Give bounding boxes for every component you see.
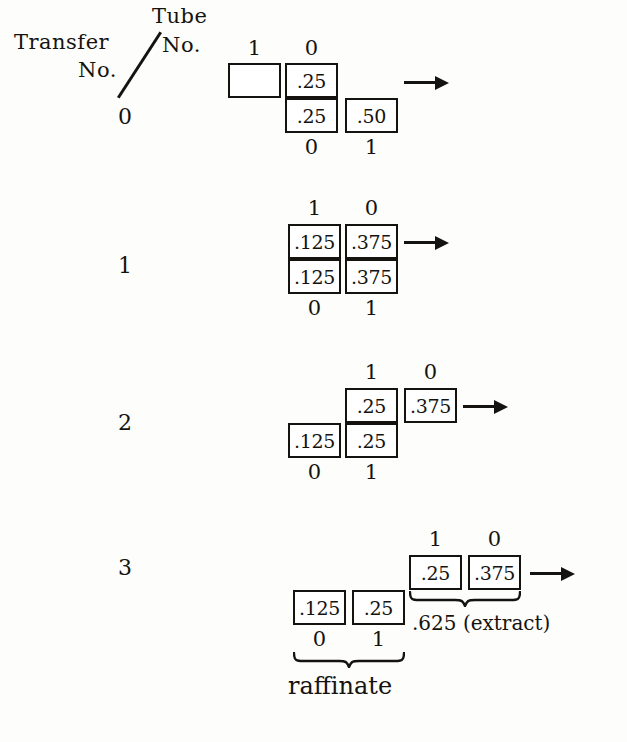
transfer-arrow-row-1: [404, 236, 450, 250]
extract-brace: [409, 591, 521, 607]
raffinate-brace: [293, 652, 405, 668]
tube-label-top-2-0: 1: [345, 360, 398, 384]
tube-label-bottom-1-0: 0: [288, 296, 341, 320]
arrow-head: [435, 236, 449, 250]
transfer-arrow-row-2: [463, 400, 509, 414]
tube-label-bottom-1-1: 1: [345, 296, 398, 320]
arrow-shaft: [530, 572, 564, 575]
cell-t3-upper-tube0[interactable]: .375: [468, 555, 521, 590]
arrow-head: [494, 400, 508, 414]
arrow-shaft: [404, 241, 438, 244]
row-label-transfer-2: 2: [105, 410, 145, 435]
cell-t0-lower-tube1[interactable]: .50: [345, 98, 398, 133]
tube-label-bottom-2-1: 1: [345, 460, 398, 484]
raffinate-label: raffinate: [288, 672, 392, 700]
transfer-axis-label-line2: No.: [78, 58, 117, 82]
transfer-arrow-row-0: [404, 76, 450, 90]
figure-canvas: Transfer No. Tube No. 0 1 0 .25 .25 .50 …: [0, 0, 627, 742]
tube-label-top-0-0: 1: [228, 36, 281, 60]
cell-t2-upper-tube0[interactable]: .375: [404, 388, 457, 423]
tube-label-bottom-3-1: 1: [352, 627, 405, 651]
row-label-transfer-1: 1: [105, 253, 145, 278]
cell-t0-upper-tube0[interactable]: .25: [285, 63, 338, 98]
tube-axis-label-line1: Tube: [152, 4, 207, 28]
extract-brace-icon: [409, 591, 521, 607]
tube-label-top-1-1: 0: [345, 196, 398, 220]
transfer-arrow-row-3: [530, 567, 576, 581]
transfer-axis-label-line1: Transfer: [14, 30, 109, 54]
cell-t3-upper-tube1[interactable]: .25: [409, 555, 462, 590]
arrow-shaft: [404, 81, 438, 84]
diagonal-divider-line: [117, 31, 162, 98]
tube-axis-label-line2: No.: [162, 33, 201, 57]
tube-label-bottom-2-0: 0: [288, 460, 341, 484]
cell-t1-lower-tube1[interactable]: .375: [345, 259, 398, 294]
raffinate-brace-icon: [293, 652, 405, 668]
cell-t3-lower-tube0[interactable]: .125: [293, 590, 346, 625]
cell-t0-lower-tube0[interactable]: .25: [285, 98, 338, 133]
tube-label-top-1-0: 1: [288, 196, 341, 220]
arrow-head: [561, 567, 575, 581]
cell-t2-lower-tube1[interactable]: .25: [345, 423, 398, 458]
tube-label-top-3-0: 1: [409, 527, 462, 551]
tube-label-top-3-1: 0: [468, 527, 521, 551]
cell-t0-upper-tube1[interactable]: [228, 63, 281, 98]
cell-t2-upper-tube1[interactable]: .25: [345, 388, 398, 423]
arrow-shaft: [463, 405, 497, 408]
tube-label-bottom-0-1: 1: [345, 135, 398, 159]
arrow-head: [435, 76, 449, 90]
cell-t1-upper-tube1[interactable]: .125: [288, 224, 341, 259]
tube-label-top-2-1: 0: [404, 360, 457, 384]
tube-label-top-0-1: 0: [285, 36, 338, 60]
cell-t2-lower-tube0[interactable]: .125: [288, 423, 341, 458]
tube-label-bottom-3-0: 0: [293, 627, 346, 651]
row-label-transfer-3: 3: [105, 555, 145, 580]
extract-label: .625 (extract): [412, 611, 550, 635]
tube-label-bottom-0-0: 0: [285, 135, 338, 159]
cell-t1-upper-tube0[interactable]: .375: [345, 224, 398, 259]
cell-t1-lower-tube0[interactable]: .125: [288, 259, 341, 294]
row-label-transfer-0: 0: [105, 104, 145, 129]
cell-t3-lower-tube1[interactable]: .25: [352, 590, 405, 625]
